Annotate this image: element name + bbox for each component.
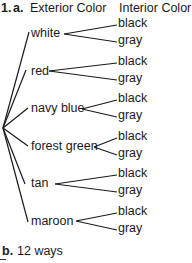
interior-gray: gray [118,146,142,160]
interior-gray: gray [118,33,142,47]
interior-gray: gray [118,221,142,235]
interior-black: black [118,204,147,218]
exterior-forest-green: forest green [31,139,98,153]
part-b-label: b. [2,244,13,258]
exterior-white: white [31,26,60,40]
interior-gray: gray [118,108,142,122]
interior-black: black [118,166,147,180]
interior-gray: gray [118,183,142,197]
cropped-next-line [0,259,6,263]
exterior-tan: tan [31,176,48,190]
exterior-maroon: maroon [31,214,73,228]
exterior-navy-blue: navy blue [31,101,85,115]
interior-gray: gray [118,71,142,85]
part-b-text: 12 ways [17,244,63,258]
exterior-red: red [31,64,49,78]
interior-black: black [118,129,147,143]
interior-black: black [118,54,147,68]
interior-black: black [118,16,147,30]
tree-diagram-lines [0,0,192,263]
interior-black: black [118,91,147,105]
